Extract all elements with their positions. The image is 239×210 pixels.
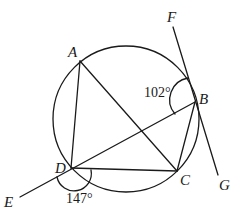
- label-F: F: [166, 9, 177, 25]
- line-EB: [20, 102, 195, 197]
- tangent-line-FG: [173, 27, 218, 175]
- geometry-diagram: A B C D E F G 102° 147°: [0, 0, 239, 210]
- segment-DC: [71, 168, 177, 171]
- angle-arc-FBD: [170, 78, 188, 114]
- label-E: E: [3, 194, 13, 210]
- segment-AD: [71, 61, 80, 168]
- label-A: A: [67, 44, 78, 60]
- segment-AC: [80, 61, 177, 171]
- label-C: C: [180, 172, 191, 188]
- label-B: B: [199, 91, 208, 107]
- label-D: D: [54, 160, 66, 176]
- label-G: G: [219, 177, 230, 193]
- angle-label-147: 147°: [66, 191, 93, 206]
- angle-label-102: 102°: [144, 85, 171, 100]
